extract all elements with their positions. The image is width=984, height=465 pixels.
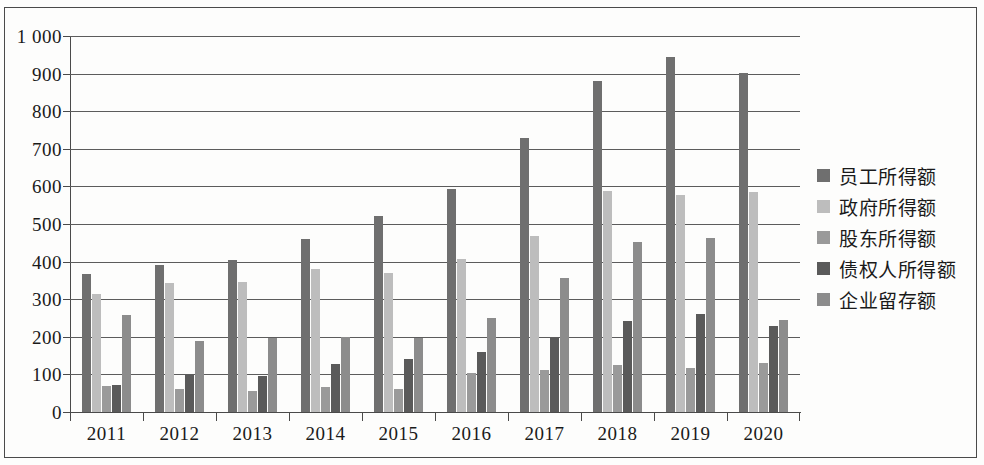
legend-item-label: 员工所得额	[839, 162, 937, 189]
bar	[623, 321, 633, 412]
bar	[686, 368, 696, 412]
legend-swatch-icon	[817, 293, 830, 306]
x-axis-tick-mark	[143, 412, 144, 421]
x-axis-category-label: 2019	[654, 424, 727, 445]
bar	[301, 239, 311, 412]
legend-swatch-icon	[817, 231, 830, 244]
bar	[477, 352, 487, 412]
y-axis-tick-labels: 1 0009008007006005004003002001000	[0, 36, 62, 412]
legend-item-label: 股东所得额	[839, 224, 937, 251]
y-axis-tick-mark	[63, 186, 70, 187]
gridline	[70, 224, 800, 225]
bar	[779, 320, 789, 412]
bar	[228, 260, 238, 412]
plot-area	[70, 36, 800, 412]
chart-legend: 员工所得额政府所得额股东所得额债权人所得额企业留存额	[817, 160, 977, 315]
bar	[520, 138, 530, 412]
x-axis-category-label: 2012	[143, 424, 216, 445]
x-axis-category-label: 2011	[70, 424, 143, 445]
legend-swatch-icon	[817, 262, 830, 275]
legend-item-label: 企业留存额	[839, 286, 937, 313]
x-axis-tick-mark	[362, 412, 363, 421]
bar	[676, 195, 686, 412]
bar	[185, 375, 195, 412]
bar	[331, 364, 341, 412]
legend-item: 员工所得额	[817, 160, 977, 191]
bar	[321, 387, 331, 412]
x-axis-tick-mark	[289, 412, 290, 421]
bar	[175, 389, 185, 412]
bar	[374, 216, 384, 412]
bar	[238, 282, 248, 412]
bar	[82, 274, 92, 412]
bar	[92, 294, 102, 412]
y-axis-tick-mark	[63, 111, 70, 112]
y-axis-tick-label: 100	[2, 365, 62, 384]
bar	[467, 373, 477, 412]
y-axis-tick-label: 0	[2, 403, 62, 422]
bar	[414, 338, 424, 412]
bar	[404, 359, 414, 412]
y-axis-tick-mark	[63, 374, 70, 375]
x-axis-tick-mark	[508, 412, 509, 421]
bar	[165, 283, 175, 412]
y-axis-tick-mark	[63, 74, 70, 75]
x-axis-tick-marks	[70, 412, 801, 421]
bar	[696, 314, 706, 412]
legend-item: 股东所得额	[817, 222, 977, 253]
x-axis-category-label: 2015	[362, 424, 435, 445]
bar	[102, 386, 112, 412]
bar	[593, 81, 603, 412]
bar	[749, 192, 759, 412]
bar	[603, 191, 613, 412]
bar	[195, 341, 205, 412]
bar	[112, 385, 122, 412]
bar	[560, 278, 570, 412]
gridline	[70, 36, 800, 37]
bar	[739, 73, 749, 412]
chart-figure: 1 0009008007006005004003002001000 201120…	[0, 0, 984, 465]
y-axis-tick-label: 900	[2, 64, 62, 83]
x-axis-category-label: 2013	[216, 424, 289, 445]
y-axis-tick-label: 1 000	[2, 27, 62, 46]
y-axis-tick-label: 700	[2, 139, 62, 158]
legend-swatch-icon	[817, 200, 830, 213]
x-axis-tick-mark	[799, 412, 800, 421]
bar	[248, 391, 258, 412]
y-axis-tick-label: 300	[2, 290, 62, 309]
gridline	[70, 111, 800, 112]
legend-item: 债权人所得额	[817, 253, 977, 284]
legend-item: 企业留存额	[817, 284, 977, 315]
x-axis-tick-mark	[216, 412, 217, 421]
bar	[258, 376, 268, 412]
gridline	[70, 299, 800, 300]
x-axis-category-label: 2018	[581, 424, 654, 445]
bar	[759, 363, 769, 412]
y-axis-tick-mark	[63, 412, 70, 413]
x-axis-tick-mark	[727, 412, 728, 421]
y-axis-tick-mark	[63, 262, 70, 263]
gridline	[70, 74, 800, 75]
gridline	[70, 262, 800, 263]
bar	[487, 318, 497, 412]
bar	[341, 337, 351, 412]
legend-swatch-icon	[817, 169, 830, 182]
bar	[706, 238, 716, 412]
y-axis-tick-mark	[63, 299, 70, 300]
bar	[550, 338, 560, 412]
y-axis-tick-label: 500	[2, 215, 62, 234]
y-axis-tick-mark	[63, 337, 70, 338]
x-axis-tick-mark	[654, 412, 655, 421]
bar	[447, 189, 457, 412]
x-axis-category-label: 2017	[508, 424, 581, 445]
bar	[155, 265, 165, 412]
x-axis-category-label: 2020	[727, 424, 800, 445]
y-axis-tick-mark	[63, 149, 70, 150]
x-axis-category-label: 2016	[435, 424, 508, 445]
x-axis-tick-mark	[435, 412, 436, 421]
bar	[633, 242, 643, 412]
bar	[666, 57, 676, 412]
bar	[769, 326, 779, 412]
x-axis-category-labels: 2011201220132014201520162017201820192020	[70, 424, 801, 454]
x-axis-tick-mark	[70, 412, 71, 421]
